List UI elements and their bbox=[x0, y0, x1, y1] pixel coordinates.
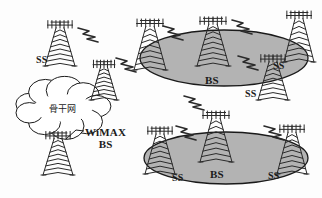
tower-label-tower-top-ss-right: SS bbox=[273, 60, 285, 71]
tower-ss-left bbox=[43, 21, 77, 66]
tower-label-tower-bot-bs: BS bbox=[210, 168, 224, 180]
tower-label-tower-ss-left: SS bbox=[36, 54, 48, 65]
network-topology-diagram: 骨干网 WiMAX BS SSBSSSSSSSBSSS bbox=[0, 0, 322, 198]
callout-line-1: WiMAX bbox=[85, 126, 126, 138]
diagram-canvas bbox=[0, 0, 322, 198]
callout-line-2: BS bbox=[85, 138, 126, 150]
tower-label-tower-top-bs: BS bbox=[205, 74, 219, 86]
tower-wimax-bs bbox=[41, 131, 75, 175]
link-mid-vertical bbox=[184, 96, 204, 110]
tower-label-tower-top-ss-inner: SS bbox=[245, 88, 257, 99]
coverage-cell-cell-top bbox=[140, 30, 308, 86]
link-ss-left-to-cell bbox=[78, 28, 98, 42]
tower-label-tower-bot-ss-left: SS bbox=[172, 172, 184, 183]
wimax-bs-callout: WiMAX BS bbox=[85, 126, 126, 150]
backbone-network-label: 骨干网 bbox=[49, 102, 76, 115]
tower-label-tower-bot-ss-right: SS bbox=[268, 170, 280, 181]
